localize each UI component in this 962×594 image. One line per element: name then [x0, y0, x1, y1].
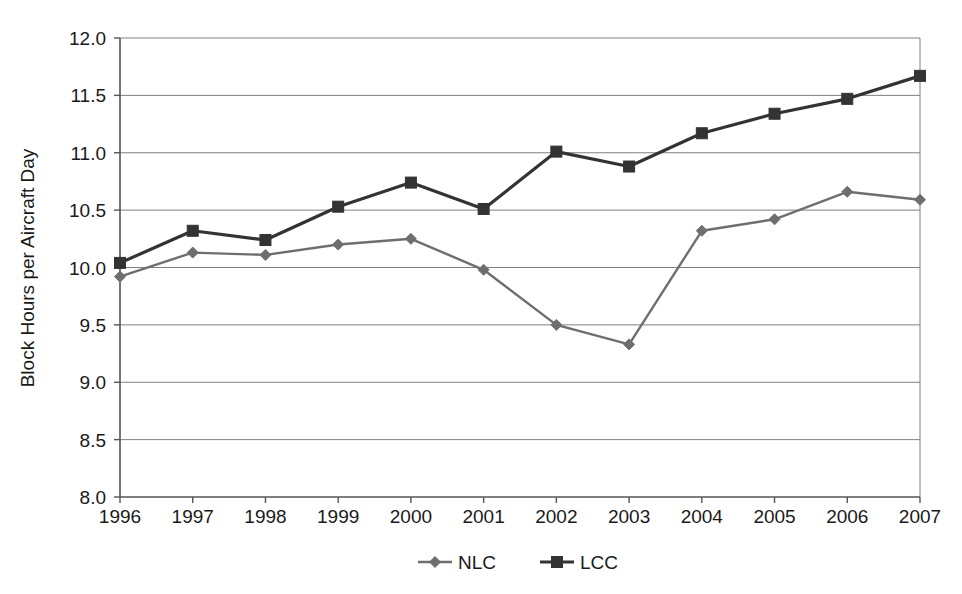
gridlines: [120, 95, 920, 439]
x-tick-label: 2002: [535, 506, 577, 527]
data-point-lcc: [478, 203, 489, 214]
chart-container: 8.08.59.09.510.010.511.011.512.0 1996199…: [0, 0, 962, 594]
x-tick-label: 2000: [390, 506, 432, 527]
y-tick-label: 8.0: [80, 487, 106, 508]
y-axis-tick-labels: 8.08.59.09.510.010.511.011.512.0: [69, 28, 106, 508]
x-axis-tick-marks: [120, 497, 920, 503]
x-tick-label: 2001: [462, 506, 504, 527]
y-tick-label: 9.5: [80, 315, 106, 336]
data-point-lcc: [696, 128, 707, 139]
data-point-lcc: [624, 161, 635, 172]
data-point-nlc: [187, 247, 198, 258]
data-point-lcc: [187, 225, 198, 236]
x-tick-label: 2003: [608, 506, 650, 527]
legend-marker-diamond: [430, 557, 441, 568]
x-tick-label: 1996: [99, 506, 141, 527]
y-axis-title: Block Hours per Aircraft Day: [17, 148, 38, 387]
data-point-nlc: [769, 214, 780, 225]
legend: NLCLCC: [418, 552, 618, 573]
data-point-lcc: [842, 93, 853, 104]
y-tick-label: 9.0: [80, 372, 106, 393]
legend-label: LCC: [580, 552, 618, 573]
data-point-lcc: [769, 108, 780, 119]
data-point-lcc: [260, 234, 271, 245]
legend-item-nlc[interactable]: NLC: [418, 552, 496, 573]
data-point-nlc: [405, 233, 416, 244]
data-point-nlc: [260, 249, 271, 260]
y-tick-label: 11.0: [70, 143, 106, 164]
data-point-nlc: [333, 239, 344, 250]
x-tick-label: 2006: [826, 506, 868, 527]
x-tick-label: 2005: [753, 506, 795, 527]
y-tick-label: 12.0: [69, 28, 106, 49]
data-point-lcc: [915, 70, 926, 81]
series-line-nlc: [120, 192, 920, 345]
legend-label: NLC: [458, 552, 496, 573]
x-tick-label: 2007: [899, 506, 941, 527]
series-lcc: [115, 70, 926, 268]
y-tick-label: 10.5: [69, 200, 106, 221]
data-point-lcc: [333, 201, 344, 212]
data-point-nlc: [842, 186, 853, 197]
data-point-lcc: [551, 146, 562, 157]
y-tick-label: 11.5: [70, 85, 106, 106]
legend-item-lcc[interactable]: LCC: [540, 552, 618, 573]
series-line-lcc: [120, 76, 920, 263]
y-tick-label: 8.5: [80, 430, 106, 451]
data-point-lcc: [405, 177, 416, 188]
line-chart: 8.08.59.09.510.010.511.011.512.0 1996199…: [0, 0, 962, 594]
y-tick-label: 10.0: [69, 258, 106, 279]
data-point-nlc: [915, 194, 926, 205]
x-axis-tick-labels: 1996199719981999200020012002200320042005…: [99, 506, 941, 527]
x-tick-label: 2004: [681, 506, 724, 527]
data-point-nlc: [115, 271, 126, 282]
legend-marker-square: [552, 557, 563, 568]
x-tick-label: 1997: [172, 506, 214, 527]
x-tick-label: 1999: [317, 506, 359, 527]
x-tick-label: 1998: [244, 506, 286, 527]
data-point-lcc: [115, 257, 126, 268]
